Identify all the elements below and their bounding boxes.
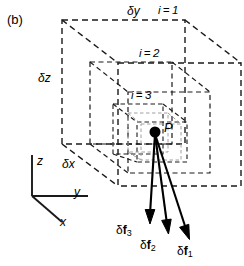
force-vector-f3 — [145, 134, 155, 224]
cube-innermost-edge-tl — [128, 113, 141, 124]
cube-i1-edge-tr — [185, 20, 241, 63]
force-label-f3: δf3 — [116, 224, 132, 238]
cube-i2-edge-tl — [90, 62, 128, 92]
force-label-f1: δf1 — [177, 245, 193, 259]
axis-label-x: x — [60, 216, 66, 228]
dimension-label-dz: δz — [38, 72, 51, 84]
cube-innermost-back-face — [128, 113, 168, 152]
axis-x-line — [32, 196, 62, 222]
cube-label-i1: i = 1 — [158, 5, 178, 17]
force-vectors — [145, 134, 189, 240]
cube-label-i2: i = 2 — [139, 48, 159, 60]
force-vector-f2 — [155, 134, 171, 234]
cube-i1 — [62, 20, 241, 186]
cube-i1-edge-tl — [62, 20, 118, 63]
dimension-label-dy: δy — [127, 5, 140, 17]
cube-label-i3: i = 3 — [131, 90, 151, 102]
panel-label: (b) — [7, 13, 23, 26]
cube-i2-edge-tr — [172, 62, 210, 92]
force-label-f2: δf2 — [140, 239, 156, 253]
axis-label-y: y — [74, 186, 80, 198]
cube-i2 — [90, 62, 210, 173]
point-p-label: P — [164, 121, 173, 134]
force-vector-f1 — [155, 134, 190, 240]
dimension-label-dx: δx — [62, 158, 75, 170]
axis-label-z: z — [37, 155, 43, 167]
cube-i3-edge-tl — [113, 104, 137, 122]
cube-innermost-edge-bl — [128, 152, 141, 160]
